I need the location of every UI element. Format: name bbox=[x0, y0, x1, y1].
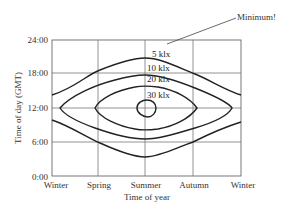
x-tick-autumn: Autumn bbox=[179, 180, 209, 190]
annotation-minimum: Minimum! bbox=[237, 12, 276, 22]
x-tick-summer: Summer bbox=[131, 180, 162, 190]
x-axis-label: Time of year bbox=[124, 192, 170, 202]
contour-label-5klx: 5 klx bbox=[152, 49, 171, 59]
y-tick-18: 18:00 bbox=[27, 68, 48, 78]
x-axis-ticks: Winter Spring Summer Autumn Winter bbox=[44, 180, 256, 190]
y-tick-12: 12:00 bbox=[27, 103, 48, 113]
contour-label-30klx: 30 klx bbox=[147, 90, 170, 100]
daylight-contour-chart: Minimum! 5 klx 10 klx 20 klx 30 klx 24:0… bbox=[0, 0, 292, 213]
grid bbox=[52, 40, 241, 176]
x-tick-spring: Spring bbox=[87, 180, 112, 190]
y-axis-ticks: 24:00 18:00 12:00 6:00 0:00 bbox=[27, 35, 48, 182]
contour-30klx bbox=[137, 100, 156, 117]
y-tick-6: 6:00 bbox=[32, 137, 49, 147]
x-tick-winter-start: Winter bbox=[44, 180, 69, 190]
y-axis-label: Time of day (GMT) bbox=[13, 72, 23, 144]
x-tick-winter-end: Winter bbox=[231, 180, 256, 190]
contour-label-20klx: 20 klx bbox=[147, 74, 170, 84]
y-tick-24: 24:00 bbox=[27, 35, 48, 45]
contour-label-10klx: 10 klx bbox=[147, 63, 170, 73]
